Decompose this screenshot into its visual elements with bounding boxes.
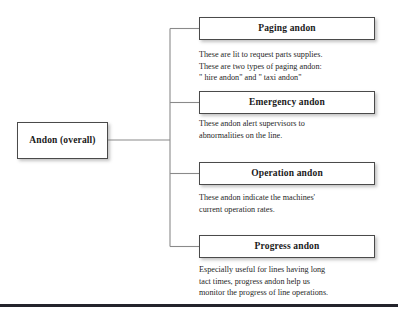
description-line: Especially useful for lines having long [199,264,389,276]
description-line: These are two types of paging andon: [199,61,389,73]
node-emergency-andon: Emergency andon [199,91,375,114]
node-paging-andon: Paging andon [199,17,375,40]
node-progress-andon: Progress andon [199,235,375,258]
description-line: These andon alert supervisors to [199,118,389,130]
description-line: tact times, progress andon help us [199,276,389,288]
node-operation-andon-label: Operation andon [251,169,323,179]
description-line: abnormalities on the line. [199,130,389,142]
description-operation-andon: These andon indicate the machines' curre… [199,192,389,215]
andon-tree-diagram: Andon (overall) Paging andon These are l… [0,0,398,318]
description-line: current operation rates. [199,204,389,216]
node-operation-andon: Operation andon [199,162,375,185]
description-line: These are lit to request parts supplies. [199,49,389,61]
description-emergency-andon: These andon alert supervisors to abnorma… [199,118,389,141]
page-bottom-rule [0,304,398,307]
description-line: These andon indicate the machines' [199,192,389,204]
node-emergency-andon-label: Emergency andon [249,98,325,108]
node-paging-andon-label: Paging andon [258,24,316,34]
description-line: " hire andon" and " taxi andon" [199,72,389,84]
description-line: monitor the progress of line operations. [199,287,389,299]
node-progress-andon-label: Progress andon [255,242,320,252]
node-andon-overall-label: Andon (overall) [29,136,95,146]
description-progress-andon: Especially useful for lines having long … [199,264,389,299]
description-paging-andon: These are lit to request parts supplies.… [199,49,389,84]
node-andon-overall: Andon (overall) [17,122,108,159]
